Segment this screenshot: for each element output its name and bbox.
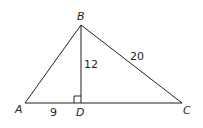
label-a: A	[14, 103, 23, 116]
label-c: C	[183, 104, 191, 117]
side-ab	[25, 25, 81, 103]
measure-bc: 20	[130, 50, 144, 63]
label-d: D	[76, 106, 84, 119]
measure-ad: 9	[50, 106, 57, 119]
label-b: B	[77, 10, 85, 23]
measure-bd: 12	[84, 58, 98, 71]
triangle-diagram: B A D C 12 20 9	[0, 0, 203, 128]
right-angle-marker	[74, 96, 81, 103]
